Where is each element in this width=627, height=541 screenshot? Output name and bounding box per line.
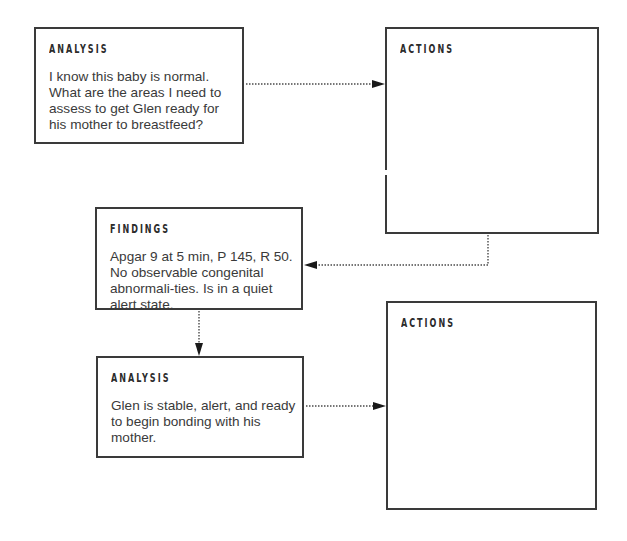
arrowhead-right-icon (373, 402, 386, 410)
connector-actions1-findings (312, 235, 488, 265)
connectors (0, 0, 627, 541)
arrowhead-left-icon (304, 261, 317, 269)
arrowhead-right-icon (372, 80, 385, 88)
arrowhead-down-icon (195, 343, 203, 356)
